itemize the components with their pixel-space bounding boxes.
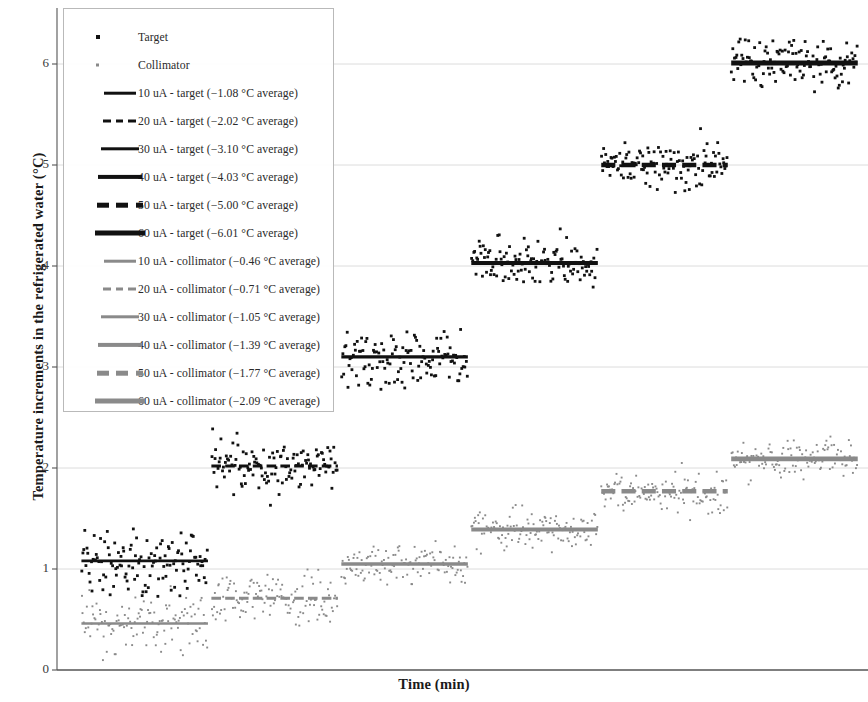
target-data-point [262,449,265,452]
collimator-data-point [357,575,359,577]
collimator-data-point [192,633,194,635]
target-data-point [437,350,440,353]
target-data-point [106,530,109,533]
collimator-data-point [579,535,581,537]
collimator-data-point [831,444,833,446]
collimator-data-point [465,556,467,558]
collimator-data-point [507,525,509,527]
collimator-data-point [105,611,107,613]
target-data-point [510,270,513,273]
target-data-point [93,534,96,537]
target-data-point [534,280,537,283]
target-data-point [82,548,85,551]
collimator-data-point [116,620,118,622]
collimator-data-point [732,451,734,453]
collimator-data-point [419,556,421,558]
target-data-point [523,237,526,240]
collimator-data-point [741,452,743,454]
target-data-point [646,147,649,150]
collimator-data-point [143,600,145,602]
collimator-data-point [693,487,695,489]
target-data-point [562,265,565,268]
target-data-point [388,382,391,385]
collimator-data-point [471,525,473,527]
target-data-point [700,183,703,186]
collimator-data-point [837,449,839,451]
collimator-data-point [390,571,392,573]
target-data-point [89,581,92,584]
collimator-data-point [680,492,682,494]
collimator-data-point [185,597,187,599]
collimator-data-point [568,540,570,542]
target-data-point [289,468,292,471]
target-data-point [581,267,584,270]
collimator-data-point [717,494,719,496]
target-data-point [189,549,192,552]
collimator-data-point [617,504,619,506]
collimator-data-point [452,567,454,569]
target-data-point [374,343,377,346]
collimator-data-point [330,582,332,584]
legend-label: Target [138,31,168,44]
collimator-data-point [116,615,118,617]
target-data-point [764,50,767,53]
target-data-point [108,553,111,556]
target-data-point [110,562,113,565]
target-data-point [348,364,351,367]
legend-label: 50 uA - target (−5.00 °C average) [138,199,298,212]
target-data-point [419,376,422,379]
target-data-point [356,340,359,343]
collimator-data-point [699,502,701,504]
target-data-point [713,175,716,178]
collimator-data-point [156,634,158,636]
target-data-point [107,546,110,549]
collimator-data-point [784,468,786,470]
target-data-point [395,345,398,348]
collimator-data-point [570,526,572,528]
target-data-point [236,432,239,435]
collimator-data-point [99,609,101,611]
target-marker-icon [96,35,100,39]
collimator-data-point [843,475,845,477]
target-data-point [96,556,99,559]
collimator-data-point [306,600,308,602]
collimator-data-point [270,605,272,607]
target-data-point [743,80,746,83]
target-data-point [799,70,802,73]
target-data-point [539,280,542,283]
collimator-data-point [553,534,555,536]
target-data-point [537,240,540,243]
collimator-data-point [567,538,569,540]
target-data-point [104,576,107,579]
target-data-point [206,549,209,552]
target-data-point [231,442,234,445]
target-data-point [288,471,291,474]
target-data-point [706,142,709,145]
target-data-point [194,556,197,559]
target-data-point [313,468,316,471]
target-data-point [629,172,632,175]
collimator-data-point [234,607,236,609]
target-data-point [223,476,226,479]
collimator-data-point [452,557,454,559]
target-data-point [690,156,693,159]
collimator-data-point [426,554,428,556]
collimator-data-point [186,612,188,614]
collimator-data-point [295,624,297,626]
collimator-data-point [429,553,431,555]
target-data-point [436,347,439,350]
target-data-point [482,244,485,247]
collimator-data-point [719,512,721,514]
collimator-data-point [713,498,715,500]
target-data-point [806,50,809,53]
target-data-point [531,277,534,280]
collimator-data-point [229,583,231,585]
collimator-data-point [829,436,831,438]
collimator-data-point [406,574,408,576]
y-axis-tick-label: 4 [23,257,49,273]
collimator-data-point [239,616,241,618]
collimator-data-point [128,608,130,610]
target-data-point [680,177,683,180]
collimator-data-point [535,533,537,535]
target-data-point [169,564,172,567]
